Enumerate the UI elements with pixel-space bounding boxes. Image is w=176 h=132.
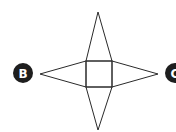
label-b-text: B bbox=[18, 67, 27, 81]
right-triangle bbox=[112, 61, 158, 87]
label-b-marker: B bbox=[13, 63, 33, 83]
label-c-marker: C bbox=[165, 63, 176, 83]
base-square bbox=[86, 61, 112, 87]
pyramid-net-diagram: B C bbox=[0, 0, 176, 132]
top-triangle bbox=[86, 12, 112, 61]
bottom-triangle bbox=[86, 87, 112, 130]
left-triangle bbox=[40, 61, 86, 87]
label-c-text: C bbox=[171, 67, 176, 81]
net-shape bbox=[40, 12, 158, 130]
